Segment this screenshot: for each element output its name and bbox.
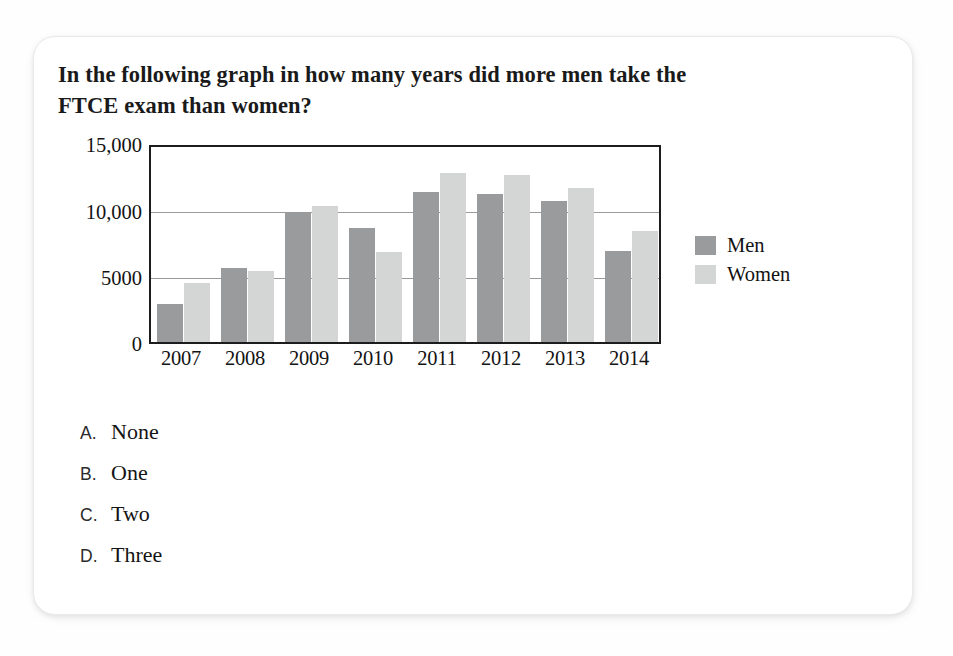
bar-group-2007 (157, 147, 210, 342)
x-axis-labels: 20072008200920102011201220132014 (149, 347, 661, 377)
option-letter: A. (80, 423, 111, 444)
bar-group-2008 (221, 147, 274, 342)
option-letter: D. (80, 546, 111, 567)
y-tick-10000: 10,000 (50, 202, 142, 223)
x-tick-2007: 2007 (150, 347, 212, 370)
y-tick-15000: 15,000 (50, 135, 142, 156)
bar-men-2014 (605, 251, 631, 342)
legend-item-men: Men (695, 231, 790, 260)
bar-women-2009 (312, 206, 338, 342)
option-letter: C. (80, 505, 111, 526)
x-tick-2014: 2014 (598, 347, 660, 370)
bar-men-2007 (157, 304, 183, 342)
option-label: One (111, 460, 148, 486)
option-label: None (111, 419, 159, 445)
bar-chart: 15,000 10,000 5000 0 2007200820092010201… (42, 145, 842, 400)
bar-group-2009 (285, 147, 338, 342)
answer-option-c[interactable]: C.Two (80, 501, 480, 542)
y-tick-5000: 5000 (50, 268, 142, 289)
bar-men-2008 (221, 268, 247, 342)
bar-women-2010 (376, 252, 402, 342)
x-tick-2009: 2009 (278, 347, 340, 370)
bar-men-2010 (349, 228, 375, 342)
legend-item-women: Women (695, 260, 790, 289)
answer-option-a[interactable]: A.None (80, 419, 480, 460)
bar-group-2010 (349, 147, 402, 342)
bar-men-2009 (285, 213, 311, 342)
answer-option-d[interactable]: D.Three (80, 542, 480, 583)
bar-women-2014 (632, 231, 658, 342)
y-tick-0: 0 (50, 334, 142, 355)
chart-legend: Men Women (695, 231, 790, 289)
legend-swatch-women-icon (695, 265, 716, 284)
bar-group-2011 (413, 147, 466, 342)
bar-women-2013 (568, 188, 594, 342)
bar-men-2012 (477, 194, 503, 342)
bar-group-2013 (541, 147, 594, 342)
legend-swatch-men-icon (695, 236, 716, 255)
plot-area (149, 145, 661, 344)
x-tick-2013: 2013 (534, 347, 596, 370)
bar-men-2013 (541, 201, 567, 342)
x-tick-2012: 2012 (470, 347, 532, 370)
legend-label-men: Men (727, 235, 765, 256)
legend-label-women: Women (727, 264, 790, 285)
bar-women-2012 (504, 175, 530, 342)
answer-options: A.NoneB.OneC.TwoD.Three (80, 419, 480, 583)
bar-series-container (151, 147, 659, 342)
x-tick-2010: 2010 (342, 347, 404, 370)
x-tick-2011: 2011 (406, 347, 468, 370)
bar-women-2007 (184, 283, 210, 342)
bar-men-2011 (413, 192, 439, 342)
bar-group-2012 (477, 147, 530, 342)
question-card: In the following graph in how many years… (33, 36, 913, 615)
option-label: Two (111, 501, 150, 527)
bar-women-2008 (248, 271, 274, 342)
option-letter: B. (80, 464, 111, 485)
question-text: In the following graph in how many years… (58, 59, 698, 121)
bar-women-2011 (440, 173, 466, 342)
x-tick-2008: 2008 (214, 347, 276, 370)
option-label: Three (111, 542, 162, 568)
y-axis-labels: 15,000 10,000 5000 0 (42, 145, 142, 400)
answer-option-b[interactable]: B.One (80, 460, 480, 501)
page-background: In the following graph in how many years… (0, 0, 953, 656)
bar-group-2014 (605, 147, 658, 342)
